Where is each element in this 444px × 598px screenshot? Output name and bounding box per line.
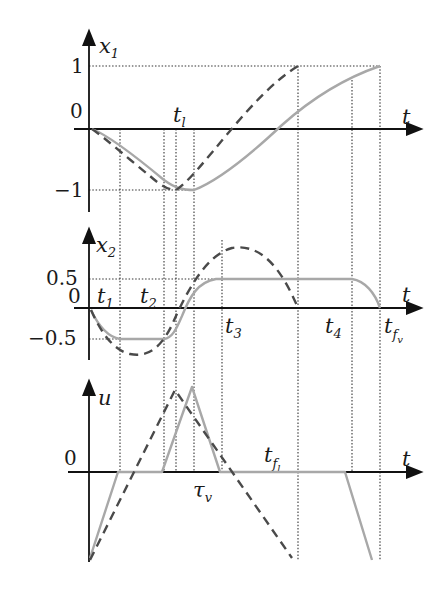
guide-lines	[89, 66, 380, 560]
x2-t-label: t	[402, 283, 411, 307]
u-ylabel: u	[98, 386, 112, 410]
x1-t-label: t	[402, 105, 411, 129]
label-tfl: tfl	[264, 443, 280, 474]
label-t1: t1	[97, 284, 114, 311]
x2-tick-0: 0	[68, 284, 81, 308]
x1-ylabel: x1	[99, 34, 119, 61]
x2-tick-neg05: −0.5	[28, 326, 77, 350]
label-tfv: tfv	[384, 314, 403, 345]
label-t4: t4	[325, 314, 342, 341]
x1-dashed-curve	[92, 66, 298, 190]
trajectory-diagram: x1 1 0 −1 t tl x2 0.5 0 −0.5 t t1 t2 t3 …	[0, 0, 444, 598]
panel-u: u 0 t τv tfl	[64, 382, 420, 562]
label-t3: t3	[225, 314, 242, 341]
u-dashed-curve	[90, 390, 292, 560]
x2-ylabel: x2	[96, 233, 116, 260]
x1-tick-neg1: −1	[54, 178, 83, 202]
panel-x2: x2 0.5 0 −0.5 t t1 t2 t3 t4 tfv	[28, 230, 420, 360]
u-t-label: t	[402, 447, 411, 471]
panel-x1: x1 1 0 −1 t tl	[54, 32, 420, 212]
label-tau-v: τv	[193, 478, 213, 505]
x1-tick-0: 0	[70, 99, 83, 123]
x1-solid-curve	[92, 66, 380, 190]
label-t2: t2	[140, 284, 157, 311]
u-tick-0: 0	[64, 446, 77, 470]
label-tl: tl	[173, 103, 186, 130]
x1-tick-1: 1	[71, 54, 84, 78]
